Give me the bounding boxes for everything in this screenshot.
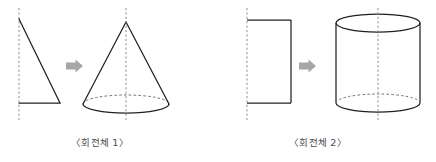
panel-2-group — [247, 8, 420, 122]
caption-rotational-solid-1: 〈회전체 1〉 — [0, 135, 200, 149]
cone-left-slant — [83, 22, 126, 104]
transform-arrow-icon-1 — [66, 60, 83, 73]
panel-1-group — [19, 8, 169, 122]
rotational-solids-figure: 〈회전체 1〉 〈회전체 2〉 — [0, 0, 436, 162]
caption-rotational-solid-2: 〈회전체 2〉 — [218, 135, 418, 149]
rectangle-shape — [247, 20, 291, 103]
cone-right-slant — [126, 22, 169, 104]
triangle-hypotenuse — [19, 19, 60, 103]
transform-arrow-icon-2 — [299, 60, 316, 73]
triangle-shape — [19, 19, 60, 103]
